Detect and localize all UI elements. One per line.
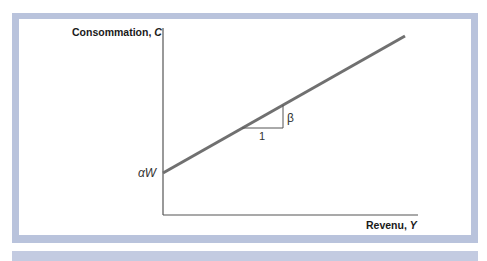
x-axis-label: Revenu, Y: [366, 219, 417, 231]
y-axis-label: Consommation, C: [72, 26, 162, 38]
consumption-line: [163, 36, 405, 173]
run-label: 1: [259, 130, 265, 142]
slope-label: β: [287, 111, 294, 125]
intercept-label: αW: [138, 166, 156, 180]
